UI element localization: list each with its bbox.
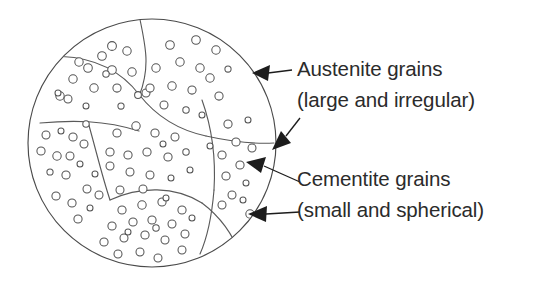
cementite-particle bbox=[206, 74, 214, 82]
cementite-particle bbox=[151, 129, 159, 137]
cementite-particle bbox=[153, 225, 159, 231]
cementite-particle bbox=[58, 128, 64, 134]
spheroidite-diagram: Austenite grains (large and irregular) C… bbox=[0, 0, 557, 281]
cementite-particle bbox=[68, 199, 76, 207]
microstructure-figure: Austenite grains (large and irregular) C… bbox=[0, 0, 557, 281]
cementite-particle bbox=[77, 161, 83, 167]
cementite-particle bbox=[106, 162, 114, 170]
cementite-particle bbox=[113, 84, 121, 92]
cementite-particle bbox=[218, 151, 226, 159]
cementite-particle bbox=[113, 129, 121, 137]
cementite-particle bbox=[192, 36, 201, 45]
cementite-particle bbox=[135, 92, 142, 99]
cementite-particle bbox=[215, 92, 223, 100]
cementite-particle bbox=[218, 201, 226, 209]
cementite-particle bbox=[83, 103, 89, 109]
cementite-particle bbox=[236, 161, 244, 169]
cementite-particle bbox=[69, 75, 77, 83]
austenite-label-group: Austenite grains (large and irregular) bbox=[297, 57, 475, 111]
cementite-particle bbox=[240, 197, 246, 203]
cementite-particle bbox=[146, 84, 154, 92]
cementite-particle bbox=[108, 42, 117, 51]
cementite-particle bbox=[248, 144, 256, 152]
cementite-particle bbox=[138, 201, 146, 209]
cementite-particle bbox=[164, 153, 172, 161]
cementite-particle bbox=[103, 71, 109, 77]
cementite-particle bbox=[188, 86, 196, 94]
cementite-particle bbox=[168, 220, 176, 228]
cementite-particle bbox=[116, 186, 124, 194]
cementite-particle bbox=[126, 168, 134, 176]
austenite-label-line2: (large and irregular) bbox=[297, 88, 475, 111]
cementite-particle bbox=[207, 143, 213, 149]
cementite-particle bbox=[52, 192, 60, 200]
cementite-particle bbox=[47, 169, 53, 175]
cementite-particle bbox=[98, 52, 107, 61]
cementite-particle bbox=[92, 171, 98, 177]
austenite-label-line1: Austenite grains bbox=[297, 57, 442, 80]
cementite-particle bbox=[178, 206, 186, 214]
cementite-particle bbox=[228, 191, 236, 199]
leader-line bbox=[266, 212, 300, 214]
cementite-particle bbox=[243, 180, 249, 186]
cementite-particle bbox=[62, 171, 70, 179]
cementite-particle bbox=[183, 107, 189, 113]
cementite-particle bbox=[154, 254, 162, 262]
cementite-particle bbox=[187, 167, 193, 173]
cementite-particle bbox=[152, 64, 160, 72]
cementite-particle bbox=[168, 175, 174, 181]
cementite-particle bbox=[148, 216, 156, 224]
cementite-particle bbox=[176, 58, 184, 66]
cementite-particle bbox=[141, 231, 149, 239]
cementite-particle bbox=[87, 205, 93, 211]
cementite-particle bbox=[166, 41, 175, 50]
cementite-particle bbox=[199, 112, 205, 118]
leader-line bbox=[268, 70, 292, 73]
cementite-particle bbox=[163, 195, 169, 201]
cementite-particle bbox=[74, 215, 82, 223]
cementite-particle bbox=[118, 103, 124, 109]
cementite-particle bbox=[139, 185, 147, 193]
cementite-particle bbox=[124, 151, 132, 159]
cementite-particle bbox=[123, 47, 131, 55]
cementite-particle bbox=[53, 152, 61, 160]
cementite-particle bbox=[129, 218, 137, 226]
cementite-particle bbox=[196, 64, 204, 72]
cementite-particle bbox=[128, 68, 136, 76]
cementite-particle bbox=[75, 58, 83, 66]
cementite-particle bbox=[83, 121, 89, 127]
cementite-particle bbox=[146, 171, 154, 179]
cementite-particle bbox=[64, 95, 72, 103]
cementite-particle bbox=[212, 46, 220, 54]
cementite-particle bbox=[80, 140, 88, 148]
cementite-particle bbox=[125, 229, 131, 235]
cementite-particle bbox=[161, 236, 169, 244]
cementite-particle bbox=[83, 185, 91, 193]
cementite-particle bbox=[108, 222, 116, 230]
cementite-particle bbox=[178, 246, 186, 254]
cementite-particle bbox=[232, 138, 240, 146]
cementite-particle bbox=[245, 117, 251, 123]
cementite-particle bbox=[222, 172, 230, 180]
cementite-particle bbox=[37, 147, 45, 155]
cementite-particle bbox=[132, 122, 140, 130]
cementite-particle bbox=[95, 191, 103, 199]
cementite-particle bbox=[183, 149, 189, 155]
cementite-particle bbox=[69, 133, 77, 141]
cementite-particle bbox=[225, 66, 231, 72]
cementite-particle bbox=[100, 238, 108, 246]
cementite-particle bbox=[106, 148, 114, 156]
cementite-particle bbox=[90, 84, 98, 92]
cementite-label-line1: Cementite grains bbox=[297, 167, 450, 190]
cementite-particle bbox=[189, 215, 195, 221]
cementite-particle bbox=[168, 82, 176, 90]
cementite-label-line2: (small and spherical) bbox=[297, 198, 484, 221]
cementite-particle bbox=[42, 131, 50, 139]
cementite-particle bbox=[55, 90, 61, 96]
cementite-particle bbox=[224, 120, 232, 128]
cementite-label-group: Cementite grains (small and spherical) bbox=[297, 167, 484, 221]
cementite-particle bbox=[171, 133, 179, 141]
cementite-particle bbox=[66, 152, 74, 160]
cementite-particle bbox=[118, 206, 126, 214]
cementite-particle bbox=[136, 248, 144, 256]
